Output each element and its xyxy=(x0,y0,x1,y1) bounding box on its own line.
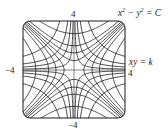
xy-curve xyxy=(82,78,162,132)
xy-curve xyxy=(0,0,72,68)
x-min-label: −4 xyxy=(5,66,15,75)
x-max-label: 4 xyxy=(128,69,133,78)
family2-equation-label: xy = k xyxy=(129,58,153,68)
family1-equation-label: x2 − y2 = C xyxy=(118,7,161,19)
y-min-label: −4 xyxy=(68,121,78,130)
xy-curve xyxy=(76,72,162,132)
y-max-label: 4 xyxy=(71,10,76,19)
eq1-y: − y xyxy=(125,8,140,18)
xy-curve xyxy=(0,0,70,66)
xy-curve xyxy=(0,0,73,69)
eq1-rhs: = C xyxy=(144,8,162,18)
